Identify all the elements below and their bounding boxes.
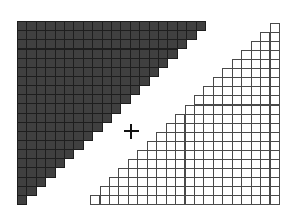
dark-grid-cell (196, 21, 206, 31)
light-grid-cell (118, 195, 128, 205)
light-grid-cell (147, 195, 157, 205)
dark-grid-cell (158, 58, 168, 68)
dark-grid-cell (73, 140, 83, 150)
dark-grid-cell (120, 94, 130, 104)
dark-grid-cell (139, 76, 149, 86)
light-grid-cell (166, 195, 176, 205)
dark-grid-cell (17, 195, 27, 205)
light-grid-cell (251, 195, 261, 205)
light-grid-cell (241, 195, 251, 205)
light-grid-cell (185, 195, 195, 205)
light-grid-cell (100, 195, 110, 205)
dark-grid-cell (92, 122, 102, 132)
light-grid-cell (156, 195, 166, 205)
light-grid-cell (213, 195, 223, 205)
dark-grid-cell (36, 177, 46, 187)
dark-grid-cell (55, 158, 65, 168)
plus-sign-icon (124, 124, 139, 139)
light-grid-cell (137, 195, 147, 205)
dark-grid-cell (167, 49, 177, 59)
light-grid-cell (90, 195, 100, 205)
dark-grid-cell (64, 149, 74, 159)
light-grid-cell (175, 195, 185, 205)
plus-vertical-stroke (130, 124, 132, 139)
light-grid-cell (194, 195, 204, 205)
light-grid-cell (232, 195, 242, 205)
dark-grid-cell (130, 85, 140, 95)
light-grid-cell (203, 195, 213, 205)
light-grid-cell (128, 195, 138, 205)
dark-grid-cell (149, 67, 159, 77)
light-grid-cell (260, 195, 270, 205)
light-grid-cell (222, 195, 232, 205)
light-grid-cell (270, 195, 280, 205)
diagram-canvas (0, 0, 294, 222)
dark-grid-cell (177, 39, 187, 49)
dark-grid-cell (83, 131, 93, 141)
dark-grid-cell (102, 113, 112, 123)
dark-grid-cell (26, 186, 36, 196)
light-grid-cell (109, 195, 119, 205)
dark-grid-cell (111, 103, 121, 113)
dark-grid-cell (186, 30, 196, 40)
dark-grid-cell (45, 167, 55, 177)
